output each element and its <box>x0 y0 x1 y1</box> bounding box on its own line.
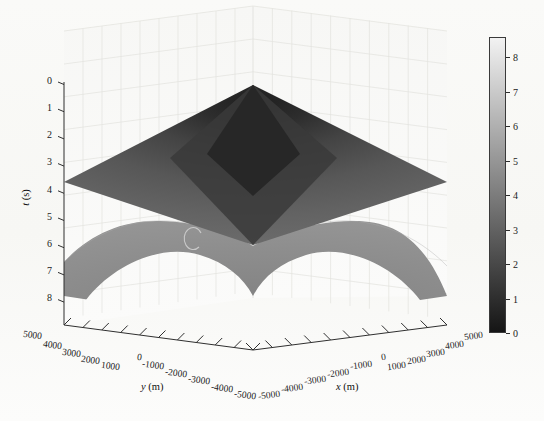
z-ticklabel: 0 <box>36 75 52 86</box>
x-axis-label-name: x <box>336 381 341 392</box>
colorbar-gradient <box>489 37 506 333</box>
colorbar-tick <box>506 333 510 334</box>
z-axis-label-unit: (s) <box>20 189 31 200</box>
colorbar-tick <box>506 57 510 58</box>
figure-canvas: 0 1 2 3 4 5 6 7 8 t (s) 5000 4000 3000 2… <box>0 0 544 421</box>
colorbar-ticklabel: 3 <box>513 224 518 235</box>
z-ticklabel: 5 <box>36 211 52 222</box>
z-axis-label-name: t <box>20 203 31 206</box>
colorbar-tick <box>506 230 510 231</box>
z-axis-ticks <box>58 82 64 302</box>
colorbar-ticklabel: 4 <box>513 190 518 201</box>
colorbar-ticklabel: 1 <box>513 293 518 304</box>
colorbar-ticklabel: 8 <box>513 52 518 63</box>
colorbar-ticklabel: 5 <box>513 155 518 166</box>
y-axis-label-unit: (m) <box>148 381 163 392</box>
x-axis-label-unit: (m) <box>343 381 358 392</box>
colorbar-tick <box>506 161 510 162</box>
y-axis-ticks <box>64 318 260 350</box>
z-ticklabel: 2 <box>36 129 52 140</box>
colorbar-ticklabel: 2 <box>513 259 518 270</box>
colorbar-tick <box>506 264 510 265</box>
colorbar: 0 1 2 3 4 5 6 7 8 <box>489 37 506 333</box>
colorbar-tick <box>506 126 510 127</box>
x-axis-ticks <box>246 318 447 350</box>
colorbar-ticklabel: 6 <box>513 121 518 132</box>
z-axis-label: t (s) <box>20 189 31 206</box>
z-ticklabel: 3 <box>36 156 52 167</box>
z-ticklabel: 7 <box>36 265 52 276</box>
y-axis-label: y (m) <box>141 381 163 392</box>
z-ticklabel: 1 <box>36 102 52 113</box>
x-axis-label: x (m) <box>336 381 358 392</box>
colorbar-tick <box>506 195 510 196</box>
colorbar-ticklabel: 0 <box>513 328 518 339</box>
y-axis-label-name: y <box>141 381 146 392</box>
colorbar-ticklabel: 7 <box>513 86 518 97</box>
z-ticklabel: 4 <box>36 184 52 195</box>
z-ticklabel: 6 <box>36 238 52 249</box>
colorbar-tick <box>506 92 510 93</box>
x-ticklabel: 0 <box>380 352 386 363</box>
z-ticklabel: 8 <box>36 292 52 303</box>
colorbar-tick <box>506 299 510 300</box>
